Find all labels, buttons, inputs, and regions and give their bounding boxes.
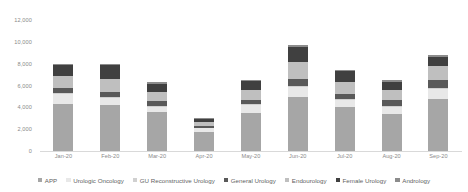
legend-label: APP (45, 177, 57, 184)
bar-segment[interactable] (241, 90, 261, 100)
bar-segment[interactable] (53, 94, 73, 104)
legend-swatch-icon (224, 178, 229, 183)
bar-segment[interactable] (147, 92, 167, 101)
bar-stack (335, 70, 355, 151)
bar-segment[interactable] (428, 99, 448, 151)
legend-item[interactable]: Andrology (395, 177, 430, 184)
bar-segment[interactable] (100, 98, 120, 105)
y-axis: 02,0004,0006,0008,00010,00012,000 (0, 0, 36, 192)
bar-segment[interactable] (428, 66, 448, 80)
bar-stack (194, 118, 214, 151)
bar-stack (241, 80, 261, 151)
legend-swatch-icon (395, 178, 400, 183)
bar-column[interactable] (416, 20, 460, 151)
legend-label: Andrology (402, 177, 430, 184)
bar-segment[interactable] (288, 47, 308, 62)
bar-segment[interactable] (100, 65, 120, 79)
x-tick-label: Jun-20 (276, 153, 320, 165)
bar-stack (382, 80, 402, 151)
bar-segment[interactable] (53, 104, 73, 151)
bar-column[interactable] (229, 20, 273, 151)
bar-segment[interactable] (428, 80, 448, 88)
x-tick-label: Sep-20 (416, 153, 460, 165)
bar-segment[interactable] (382, 82, 402, 91)
x-axis-line (40, 151, 462, 152)
bar-segment[interactable] (53, 65, 73, 76)
bar-segment[interactable] (382, 107, 402, 115)
bar-column[interactable] (370, 20, 414, 151)
bar-segment[interactable] (335, 107, 355, 151)
legend-item[interactable]: Female Urology (336, 177, 387, 184)
bar-column[interactable] (135, 20, 179, 151)
chart-legend: APPUrologic OncologyGU Reconstructive Ur… (0, 173, 468, 187)
bar-stack (53, 64, 73, 151)
bar-segment[interactable] (241, 105, 261, 113)
bar-segment[interactable] (288, 62, 308, 79)
bar-segment[interactable] (194, 132, 214, 151)
y-tick-label: 10,000 (14, 39, 32, 45)
bar-segment[interactable] (335, 71, 355, 81)
legend-swatch-icon (285, 178, 290, 183)
legend-label: GU Reconstructive Urology (140, 177, 215, 184)
bar-segment[interactable] (288, 79, 308, 86)
bar-stack (147, 82, 167, 151)
y-tick-label: 12,000 (14, 17, 32, 23)
legend-item[interactable]: General Urology (224, 177, 276, 184)
bar-segment[interactable] (428, 89, 448, 98)
bar-segment[interactable] (100, 105, 120, 151)
y-tick-label: 2,000 (18, 126, 33, 132)
bar-stack (428, 55, 448, 151)
bar-group (40, 20, 462, 151)
x-axis-labels: Jan-20Feb-20Mar-20Apr-20May-20Jun-20Jul-… (40, 153, 462, 165)
bar-segment[interactable] (288, 87, 308, 97)
legend-label: General Urology (231, 177, 276, 184)
bar-segment[interactable] (428, 57, 448, 66)
bar-column[interactable] (323, 20, 367, 151)
y-tick-label: 8,000 (18, 61, 33, 67)
bar-segment[interactable] (241, 81, 261, 90)
stacked-bar-chart: 02,0004,0006,0008,00010,00012,000 Jan-20… (0, 0, 468, 192)
x-tick-label: Aug-20 (370, 153, 414, 165)
bar-column[interactable] (182, 20, 226, 151)
legend-swatch-icon (133, 178, 138, 183)
y-tick-label: 6,000 (18, 83, 33, 89)
bar-segment[interactable] (147, 84, 167, 93)
legend-label: Endourology (292, 177, 327, 184)
legend-swatch-icon (66, 178, 71, 183)
legend-item[interactable]: Endourology (285, 177, 327, 184)
legend-item[interactable]: GU Reconstructive Urology (133, 177, 215, 184)
y-tick-label: 0 (29, 148, 32, 154)
legend-item[interactable]: Urologic Oncology (66, 177, 124, 184)
x-tick-label: Apr-20 (182, 153, 226, 165)
x-tick-label: Mar-20 (135, 153, 179, 165)
bar-stack (100, 64, 120, 151)
bar-stack (288, 45, 308, 151)
bar-segment[interactable] (288, 97, 308, 151)
bar-segment[interactable] (100, 79, 120, 92)
x-tick-label: Jul-20 (323, 153, 367, 165)
plot-area (40, 20, 462, 151)
bar-column[interactable] (41, 20, 85, 151)
x-tick-label: Jan-20 (41, 153, 85, 165)
x-tick-label: May-20 (229, 153, 273, 165)
legend-swatch-icon (38, 178, 43, 183)
legend-label: Female Urology (343, 177, 387, 184)
bar-segment[interactable] (335, 82, 355, 94)
bar-column[interactable] (276, 20, 320, 151)
bar-segment[interactable] (147, 112, 167, 151)
bar-segment[interactable] (382, 114, 402, 151)
bar-segment[interactable] (241, 113, 261, 151)
legend-swatch-icon (336, 178, 341, 183)
legend-item[interactable]: APP (38, 177, 57, 184)
legend-label: Urologic Oncology (73, 177, 124, 184)
y-tick-label: 4,000 (18, 104, 33, 110)
bar-segment[interactable] (382, 90, 402, 100)
bar-column[interactable] (88, 20, 132, 151)
x-tick-label: Feb-20 (88, 153, 132, 165)
bar-segment[interactable] (53, 76, 73, 88)
